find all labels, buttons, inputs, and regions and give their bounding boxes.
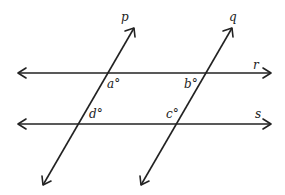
angle-d-label: d° (89, 107, 103, 121)
line-q (140, 28, 233, 185)
label-q: q (229, 10, 237, 24)
line-s (18, 119, 271, 129)
angle-c-label: c° (166, 107, 179, 121)
label-p: p (121, 10, 129, 24)
angle-b-label: b° (184, 77, 198, 91)
angle-a-label: a° (107, 77, 120, 91)
parallel-lines-diagram: p q r s a° b° c° d° (0, 0, 285, 195)
line-r (18, 68, 271, 78)
label-s: s (255, 107, 261, 121)
label-r: r (253, 58, 260, 72)
